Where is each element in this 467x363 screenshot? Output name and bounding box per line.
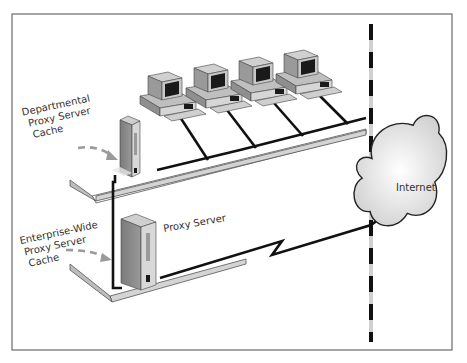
enterprise-platform	[70, 259, 246, 302]
departmental-proxy-server	[112, 116, 140, 177]
proxy-server-label: Proxy Server	[162, 212, 227, 234]
internet-label: Internet	[396, 182, 436, 193]
enterprise-cache-label: Enterprise-Wide Proxy Server Cache	[19, 219, 104, 270]
departmental-cache-label: Departmental Proxy Server Cache	[21, 93, 96, 142]
departmental-platform	[70, 129, 366, 203]
proxy-network-diagram: Internet Departmental Proxy Server Cache…	[0, 0, 467, 363]
internet-cloud[interactable]: Internet	[354, 116, 447, 226]
departmental-cache-arrow	[78, 147, 118, 160]
enterprise-cache-arrow	[66, 250, 112, 262]
enterprise-proxy-server	[121, 214, 156, 290]
